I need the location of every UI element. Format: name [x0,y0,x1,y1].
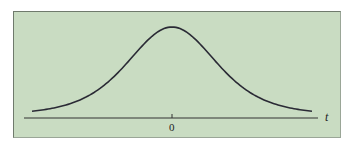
tick-label-zero: 0 [169,121,175,133]
axis-label-t: t [325,110,328,125]
density-curve [32,27,312,111]
